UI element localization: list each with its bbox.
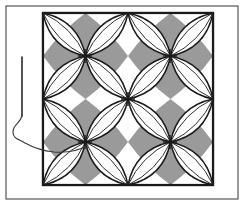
quilt-pattern-illustration: Quilting pattern diagram - orange peel /… <box>0 0 244 205</box>
figure-canvas: Quilting pattern diagram - orange peel /… <box>0 0 244 205</box>
